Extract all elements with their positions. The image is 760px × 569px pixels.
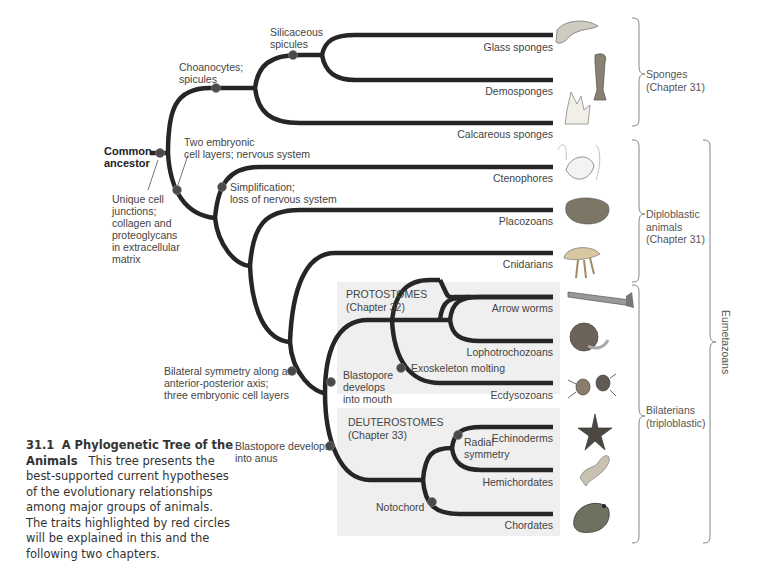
figure-caption: 31.1 A Phylogenetic Tree of the Animals … bbox=[26, 438, 236, 562]
sea-star-illustration bbox=[578, 414, 612, 450]
calcareous-sponge-illustration bbox=[565, 92, 590, 124]
caption-body: This tree presents the best-supported cu… bbox=[26, 454, 230, 561]
frog-illustration bbox=[574, 503, 610, 532]
acorn-worm-illustration bbox=[580, 456, 609, 486]
mite-illustration bbox=[568, 374, 616, 398]
demosponge-illustration bbox=[594, 54, 606, 100]
nautilus-illustration bbox=[570, 323, 608, 351]
jellyfish-illustration bbox=[564, 248, 600, 278]
phylogenetic-tree-figure: Common ancestor Unique cell junctions; c… bbox=[0, 0, 760, 569]
arrow-worm-illustration bbox=[568, 292, 634, 308]
glass-sponge-illustration bbox=[556, 21, 598, 43]
ctenophore-illustration bbox=[558, 145, 600, 180]
caption-number: 31.1 bbox=[26, 438, 54, 452]
placozoan-illustration bbox=[566, 198, 609, 224]
